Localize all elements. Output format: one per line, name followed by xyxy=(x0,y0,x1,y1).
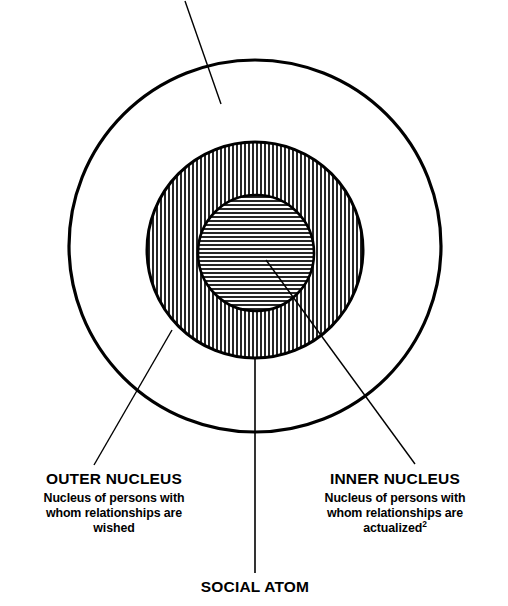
outer-nucleus-heading: OUTER NUCLEUS xyxy=(0,470,228,488)
inner-nucleus-caption-word: actualized xyxy=(363,521,422,535)
social-atom-label: SOCIAL ATOM xyxy=(155,578,355,596)
outer-nucleus-label: OUTER NUCLEUS Nucleus of persons with wh… xyxy=(0,470,228,535)
inner-nucleus-caption-line-1: Nucleus of persons with xyxy=(282,491,508,506)
diagram-page: OUTER NUCLEUS Nucleus of persons with wh… xyxy=(0,0,508,606)
outer-nucleus-caption-line-1: Nucleus of persons with xyxy=(0,491,228,506)
inner-nucleus-caption-line-2: whom relationships are xyxy=(282,506,508,521)
inner-nucleus-caption-line-3: actualized2 xyxy=(282,521,508,536)
outer-nucleus-caption: Nucleus of persons with whom relationshi… xyxy=(0,491,228,535)
inner-circle-horizontal-hatch xyxy=(198,195,314,311)
social-atom-heading: SOCIAL ATOM xyxy=(155,578,355,596)
inner-nucleus-caption: Nucleus of persons with whom relationshi… xyxy=(282,491,508,535)
inner-nucleus-footnote-marker: 2 xyxy=(422,518,427,528)
inner-nucleus-heading: INNER NUCLEUS xyxy=(282,470,508,488)
outer-nucleus-caption-line-3: wished xyxy=(0,521,228,536)
inner-nucleus-label: INNER NUCLEUS Nucleus of persons with wh… xyxy=(282,470,508,535)
outer-nucleus-caption-line-2: whom relationships are xyxy=(0,506,228,521)
